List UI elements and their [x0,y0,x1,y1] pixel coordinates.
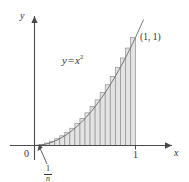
rect-width-annotation: 1 n [41,165,55,182]
origin-label: 0 [24,149,29,159]
riemann-rect [130,38,135,146]
riemann-rect [105,85,110,146]
x-tick-label-one: 1 [133,150,138,160]
riemann-rect [115,67,120,145]
curve-equation-label: y=x2 [62,54,83,66]
x-axis-arrowhead [165,142,172,148]
curve-label-equals: = [67,54,75,66]
point-label-one-one: (1, 1) [140,33,161,43]
riemann-rect [75,124,80,146]
width-annotation-leader [40,147,48,164]
x-axis-label: x [174,148,178,158]
riemann-rectangles [35,38,136,146]
riemann-rect [120,58,125,145]
curve-label-exponent: 2 [80,53,83,60]
riemann-rect [110,76,115,145]
fraction-denominator: n [41,175,55,182]
riemann-rect [100,93,105,146]
y-axis-arrowhead [31,16,37,23]
riemann-rect [95,100,100,146]
riemann-sum-figure: y x 0 1 y=x2 (1, 1) 1 n [0,0,189,182]
y-axis-label: y [20,11,24,21]
riemann-rect [125,48,130,145]
fraction-numerator: 1 [41,165,55,173]
